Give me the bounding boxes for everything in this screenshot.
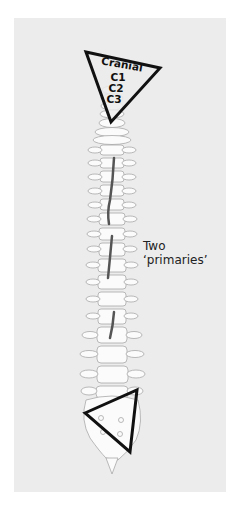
annotation-line-2: ‘primaries’ — [143, 253, 207, 267]
level-c3: C3 — [104, 94, 124, 105]
annotation-line-1: Two — [143, 239, 166, 253]
coccyx — [106, 458, 118, 474]
lumbar-vertebrae — [80, 327, 145, 398]
